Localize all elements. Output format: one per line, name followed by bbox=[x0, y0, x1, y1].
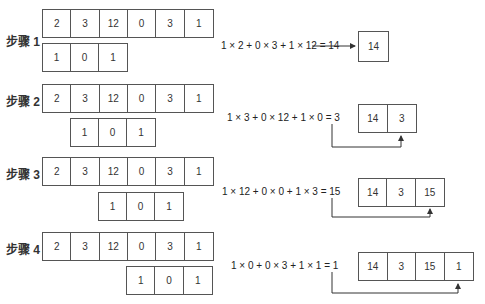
output-cell: 14 bbox=[359, 253, 388, 280]
step-4-output-row: 14 3 15 1 bbox=[358, 252, 474, 281]
output-cell: 14 bbox=[359, 179, 387, 206]
step-3-label: 步骤 3 bbox=[6, 165, 40, 182]
input-cell: 12 bbox=[100, 158, 128, 185]
step-4-label: 步骤 4 bbox=[6, 240, 40, 257]
input-cell: 3 bbox=[71, 85, 99, 112]
kernel-cell: 1 bbox=[127, 119, 155, 146]
kernel-cell: 1 bbox=[184, 267, 212, 294]
step-2-output-row: 14 3 bbox=[358, 104, 417, 133]
kernel-cell: 1 bbox=[99, 44, 127, 71]
step-3-kernel-row: 1 0 1 bbox=[98, 192, 184, 221]
input-cell: 0 bbox=[128, 158, 156, 185]
input-cell: 1 bbox=[185, 10, 213, 37]
input-cell: 3 bbox=[156, 10, 184, 37]
input-cell: 3 bbox=[71, 233, 99, 260]
input-cell: 2 bbox=[43, 233, 71, 260]
output-cell: 15 bbox=[416, 253, 445, 280]
step-2-kernel-row: 1 0 1 bbox=[70, 118, 156, 147]
output-cell: 3 bbox=[387, 179, 415, 206]
kernel-cell: 0 bbox=[155, 267, 183, 294]
step-2-equation: 1 × 3 + 0 × 12 + 1 × 0 = 3 bbox=[227, 112, 340, 123]
step-1-kernel-row: 1 0 1 bbox=[42, 43, 128, 72]
output-cell: 1 bbox=[445, 253, 474, 280]
input-cell: 3 bbox=[71, 158, 99, 185]
input-cell: 12 bbox=[100, 233, 128, 260]
output-cell: 14 bbox=[359, 32, 388, 61]
output-cell: 3 bbox=[388, 253, 417, 280]
input-cell: 1 bbox=[185, 85, 213, 112]
kernel-cell: 0 bbox=[71, 44, 99, 71]
input-cell: 2 bbox=[43, 10, 71, 37]
input-cell: 12 bbox=[100, 85, 128, 112]
step-4-input-row: 2 3 12 0 3 1 bbox=[42, 232, 214, 261]
step-1-input-row: 2 3 12 0 3 1 bbox=[42, 9, 214, 38]
input-cell: 0 bbox=[128, 85, 156, 112]
input-cell: 1 bbox=[185, 158, 213, 185]
step-1-equation: 1 × 2 + 0 × 3 + 1 × 12 = 14 bbox=[221, 40, 339, 51]
step-2-input-row: 2 3 12 0 3 1 bbox=[42, 84, 214, 113]
step-3-equation: 1 × 12 + 0 × 0 + 1 × 3 = 15 bbox=[222, 186, 340, 197]
kernel-cell: 1 bbox=[43, 44, 71, 71]
input-cell: 3 bbox=[156, 158, 184, 185]
kernel-cell: 0 bbox=[127, 193, 155, 220]
kernel-cell: 1 bbox=[99, 193, 127, 220]
step-4-kernel-row: 1 0 1 bbox=[126, 266, 213, 295]
input-cell: 2 bbox=[43, 158, 71, 185]
step-3-input-row: 2 3 12 0 3 1 bbox=[42, 157, 214, 186]
output-cell: 15 bbox=[416, 179, 444, 206]
kernel-cell: 1 bbox=[155, 193, 183, 220]
kernel-cell: 1 bbox=[127, 267, 155, 294]
step-4-equation: 1 × 0 + 0 × 3 + 1 × 1 = 1 bbox=[231, 260, 338, 271]
input-cell: 3 bbox=[156, 233, 184, 260]
input-cell: 0 bbox=[128, 233, 156, 260]
kernel-cell: 0 bbox=[99, 119, 127, 146]
input-cell: 3 bbox=[71, 10, 99, 37]
input-cell: 2 bbox=[43, 85, 71, 112]
kernel-cell: 1 bbox=[71, 119, 99, 146]
input-cell: 12 bbox=[100, 10, 128, 37]
output-cell: 14 bbox=[359, 105, 388, 132]
output-cell: 3 bbox=[388, 105, 417, 132]
input-cell: 1 bbox=[185, 233, 213, 260]
input-cell: 3 bbox=[156, 85, 184, 112]
step-2-label: 步骤 2 bbox=[6, 92, 40, 109]
input-cell: 0 bbox=[128, 10, 156, 37]
step-1-label: 步骤 1 bbox=[6, 32, 40, 49]
step-3-output-row: 14 3 15 bbox=[358, 178, 445, 207]
step-1-output-row: 14 bbox=[358, 31, 389, 62]
